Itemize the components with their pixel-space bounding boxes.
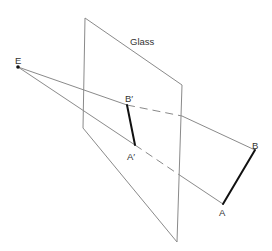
ray-eye-to-a-prime bbox=[18, 67, 135, 145]
image-segment-a-prime-b-prime bbox=[127, 105, 135, 145]
a-label: A bbox=[219, 207, 226, 218]
a-prime-label: A′ bbox=[127, 151, 135, 162]
object-segment-a-b bbox=[223, 150, 255, 204]
b-prime-label: B′ bbox=[125, 93, 133, 104]
eye-label: E bbox=[15, 55, 21, 66]
ray-glass-to-a bbox=[181, 176, 223, 204]
ray-glass-to-b bbox=[182, 116, 255, 150]
glass-label: Glass bbox=[130, 36, 155, 47]
perspective-glass-diagram: Glass E B′ A′ B A bbox=[0, 0, 272, 251]
ray-a-prime-hidden-dashed bbox=[135, 145, 181, 176]
b-label: B bbox=[252, 140, 258, 151]
ray-eye-to-b-prime bbox=[18, 67, 127, 105]
ray-b-prime-hidden-dashed bbox=[127, 105, 182, 116]
